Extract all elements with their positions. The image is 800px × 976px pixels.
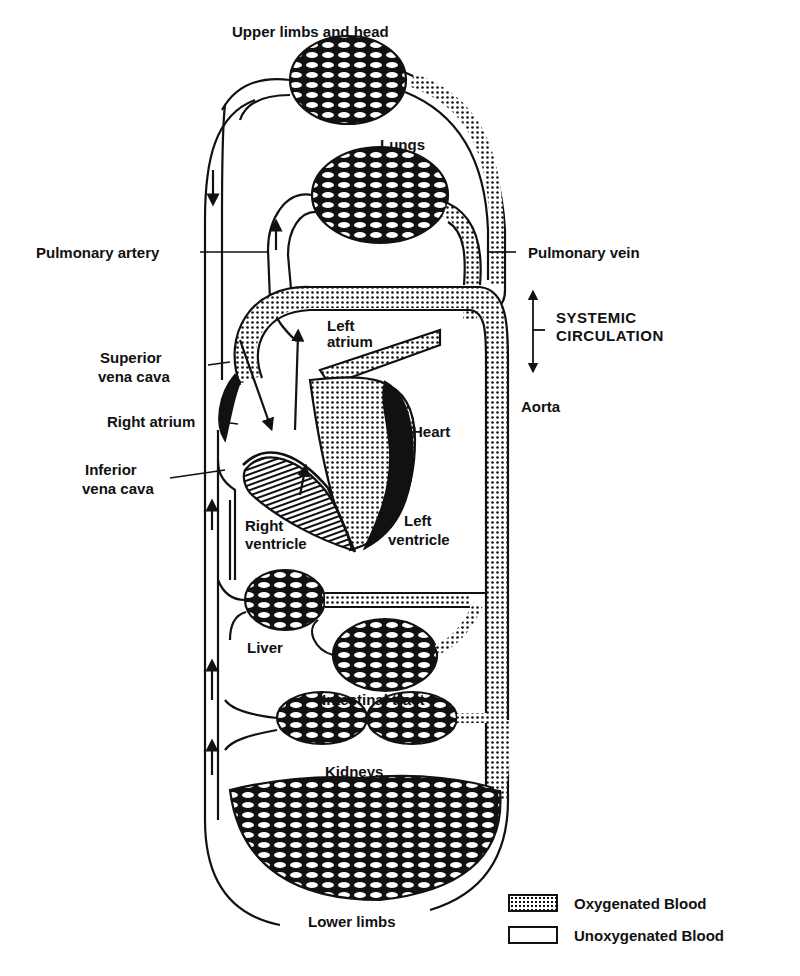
label-left-atrium-2: atrium	[327, 332, 373, 351]
label-circulation: CIRCULATION	[556, 326, 664, 345]
label-liver: Liver	[247, 638, 283, 657]
label-systemic: SYSTEMIC	[556, 308, 637, 327]
label-inferior-vena-cava-2: vena cava	[82, 479, 154, 498]
legend-label: Unoxygenated Blood	[574, 927, 724, 944]
label-lungs: Lungs	[380, 135, 425, 154]
legend-item-unoxygenated: Unoxygenated Blood	[508, 922, 724, 948]
label-intestinal-tract: Intestinal tract	[322, 690, 425, 709]
lower-limbs-capillaries	[230, 776, 500, 900]
legend-item-oxygenated: Oxygenated Blood	[508, 890, 724, 916]
lungs-capillaries	[312, 147, 448, 243]
label-right-ventricle-1: Right	[245, 516, 283, 535]
label-upper-limbs-head: Upper limbs and head	[232, 22, 389, 41]
intestine-capillaries	[333, 619, 437, 691]
label-lower-limbs: Lower limbs	[308, 912, 396, 931]
plain-swatch-icon	[508, 926, 558, 944]
label-pulmonary-artery: Pulmonary artery	[36, 243, 159, 262]
label-pulmonary-vein: Pulmonary vein	[528, 243, 640, 262]
label-superior-vena-cava-1: Superior	[100, 348, 162, 367]
label-aorta: Aorta	[521, 397, 560, 416]
label-superior-vena-cava-2: vena cava	[98, 367, 170, 386]
liver-capillaries	[245, 570, 325, 630]
label-left-ventricle-2: ventricle	[388, 530, 450, 549]
dotted-swatch-icon	[508, 894, 558, 912]
right-atrium-mark	[219, 375, 240, 440]
label-inferior-vena-cava-1: Inferior	[85, 460, 137, 479]
legend: Oxygenated Blood Unoxygenated Blood	[508, 890, 724, 954]
label-left-ventricle-1: Left	[404, 511, 432, 530]
label-right-ventricle-2: ventricle	[245, 534, 307, 553]
upper-limbs-capillaries	[290, 36, 406, 124]
legend-label: Oxygenated Blood	[574, 895, 707, 912]
label-heart: Heart	[412, 422, 450, 441]
label-kidneys: Kidneys	[325, 762, 383, 781]
label-right-atrium: Right atrium	[107, 412, 195, 431]
